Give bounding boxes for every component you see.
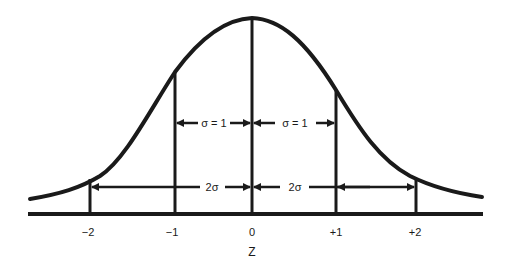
two-sigma-left-label: 2σ xyxy=(204,181,221,193)
sigma-right-label: σ = 1 xyxy=(280,117,309,129)
two-sigma-right-label: 2σ xyxy=(287,181,304,193)
sigma-left-label: σ = 1 xyxy=(199,117,228,129)
z-axis-label: Z xyxy=(246,245,257,259)
tick-label-minus-2: −2 xyxy=(80,226,97,238)
tick-label-plus-1: +1 xyxy=(328,226,345,238)
tick-label-zero: 0 xyxy=(247,226,257,238)
tick-label-minus-1: −1 xyxy=(164,226,181,238)
tick-label-plus-2: +2 xyxy=(407,226,424,238)
bell-curve xyxy=(30,18,482,199)
